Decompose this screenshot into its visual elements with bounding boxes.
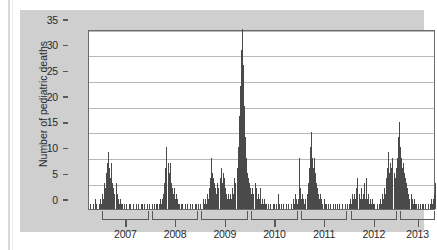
bar <box>291 204 292 209</box>
bar <box>268 204 269 209</box>
x-axis-year-segment <box>351 211 398 220</box>
bar <box>152 204 153 209</box>
x-axis-year-segment <box>251 211 298 220</box>
x-axis-tick-label: 2010 <box>249 228 299 240</box>
bar <box>93 204 94 209</box>
bar <box>157 204 158 209</box>
page-left-rule <box>8 0 10 250</box>
y-axis-tick-label: 15 <box>36 116 58 128</box>
bar <box>138 204 139 209</box>
bar <box>339 204 340 209</box>
y-axis-tick <box>63 45 68 46</box>
page-left-rule-secondary <box>12 0 13 250</box>
x-axis-tick-label: 2009 <box>200 228 250 240</box>
x-axis-tick-label: 2013 <box>393 228 437 240</box>
bar <box>187 204 188 209</box>
bar <box>200 204 201 209</box>
y-axis-tick-label: 5 <box>36 168 58 180</box>
y-axis-tick-label: 35 <box>36 14 58 26</box>
bar <box>90 204 91 209</box>
x-axis-year-segment <box>102 211 149 220</box>
y-axis-tick <box>63 96 68 97</box>
bar <box>335 204 336 209</box>
y-axis-tick-label: 0 <box>36 194 58 206</box>
x-axis-year-segment <box>201 211 248 220</box>
bar <box>124 204 125 209</box>
bar <box>182 204 183 209</box>
bar <box>428 204 429 209</box>
bar <box>342 204 343 209</box>
figure: Number of pediatric deaths 2007200820092… <box>0 0 437 250</box>
x-axis-tick-label: 2008 <box>150 228 200 240</box>
bar <box>286 204 287 209</box>
bar <box>154 204 155 209</box>
bar <box>198 204 199 209</box>
x-axis-center-tick <box>125 220 126 227</box>
bar <box>96 204 97 209</box>
x-axis-year-segment <box>301 211 348 220</box>
y-axis-tick <box>63 199 68 200</box>
bar <box>133 204 134 209</box>
bar <box>420 204 421 209</box>
chart-panel: Number of pediatric deaths 2007200820092… <box>20 10 424 232</box>
bar <box>337 204 338 209</box>
x-axis-center-tick <box>324 220 325 227</box>
bar <box>130 204 131 209</box>
bar <box>266 204 267 209</box>
x-axis-tick-label: 2011 <box>299 228 349 240</box>
y-axis-tick-label: 30 <box>36 39 58 51</box>
x-axis-year-segment <box>152 211 199 220</box>
bar <box>377 204 378 209</box>
x-axis-tick-label: 2012 <box>349 228 399 240</box>
bar <box>345 204 346 209</box>
x-axis-center-tick <box>225 220 226 227</box>
bar <box>179 204 180 209</box>
bar <box>330 204 331 209</box>
plot-area <box>88 30 435 210</box>
bar <box>136 204 137 209</box>
bar <box>274 204 275 209</box>
bar <box>425 204 426 209</box>
y-axis-tick-label: 25 <box>36 65 58 77</box>
x-axis-center-tick <box>274 220 275 227</box>
bar <box>122 204 123 209</box>
bar <box>374 204 375 209</box>
y-axis-tick <box>63 19 68 20</box>
bar <box>326 204 327 209</box>
y-axis-tick <box>63 148 68 149</box>
y-axis-tick <box>63 122 68 123</box>
bar <box>276 204 277 209</box>
x-axis-tick-label: 2007 <box>100 228 150 240</box>
bar <box>279 204 280 209</box>
bar <box>144 204 145 209</box>
bar <box>416 204 417 209</box>
bar <box>196 204 197 209</box>
bar <box>435 183 436 209</box>
bar <box>147 204 148 209</box>
bar <box>281 204 282 209</box>
bar <box>185 204 186 209</box>
bar <box>270 204 271 209</box>
y-axis-tick <box>63 71 68 72</box>
bar <box>283 204 284 209</box>
x-axis: 2007200820092010201120122013 <box>88 211 435 241</box>
bar <box>347 204 348 209</box>
x-axis-year-segment <box>400 211 435 220</box>
x-axis-center-tick <box>374 220 375 227</box>
bar <box>190 204 191 209</box>
y-axis-tick <box>63 174 68 175</box>
bar <box>288 204 289 209</box>
x-axis-center-tick <box>418 220 419 227</box>
x-axis-center-tick <box>175 220 176 227</box>
y-axis-tick-label: 10 <box>36 142 58 154</box>
bar <box>333 204 334 209</box>
y-axis-tick-label: 20 <box>36 91 58 103</box>
bar <box>142 204 143 209</box>
bar-series <box>89 31 434 209</box>
bar <box>149 204 150 209</box>
bar <box>418 204 419 209</box>
bar <box>328 204 329 209</box>
bar <box>423 204 424 209</box>
bar <box>126 204 127 209</box>
bar <box>192 204 193 209</box>
